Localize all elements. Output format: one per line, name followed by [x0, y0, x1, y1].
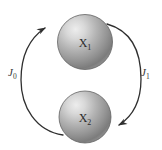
node-bottom-group: X2 [59, 91, 111, 143]
node-bottom-label-base: X [79, 111, 88, 125]
diagram-canvas: X1 X2 J0 J1 [0, 0, 162, 150]
cycle-diagram-figure: X1 X2 J0 J1 [0, 0, 162, 150]
arrow-left-group [21, 28, 63, 135]
node-bottom-label-subscript: 2 [87, 118, 91, 127]
flux-label-j0: J0 [8, 66, 17, 81]
node-top-group: X1 [58, 15, 113, 70]
flux-label-j0-subscript: 0 [13, 72, 17, 81]
node-top-label-base: X [79, 36, 88, 50]
flux-label-j1: J1 [141, 66, 150, 81]
arrow-left-path [21, 28, 63, 135]
flux-label-j1-subscript: 1 [146, 72, 150, 81]
node-top-label-subscript: 1 [87, 43, 91, 52]
